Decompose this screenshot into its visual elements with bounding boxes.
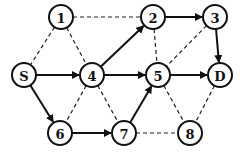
node-5: 5 [146, 63, 170, 87]
node-label: D [214, 69, 225, 84]
node-6: 6 [48, 121, 72, 145]
directed-solid-edges [30, 17, 219, 133]
node-2: 2 [141, 5, 165, 29]
dashed-edge-4-7 [98, 86, 118, 123]
arrow-edge-4-to-2 [101, 26, 144, 67]
node-7: 7 [112, 121, 136, 145]
dashed-edge-1-4 [67, 28, 87, 65]
dashed-edge-D-8 [196, 86, 215, 123]
dashed-edge-1-S [30, 27, 54, 65]
node-label: 7 [119, 127, 128, 142]
node-label: S [19, 69, 28, 84]
node-label: 6 [55, 127, 64, 142]
arrow-edge-3-to-D [216, 29, 219, 62]
node-label: 1 [56, 11, 65, 26]
dashed-edge-2-5 [154, 29, 157, 63]
dashed-edge-3-5 [166, 26, 206, 67]
node-label: 3 [210, 11, 219, 26]
node-label: 2 [148, 11, 157, 26]
node-S: S [12, 63, 36, 87]
node-label: 4 [87, 69, 96, 84]
arrow-edge-S-to-6 [30, 85, 53, 122]
node-8: 8 [178, 121, 202, 145]
node-label: 5 [153, 69, 162, 84]
node-4: 4 [80, 63, 104, 87]
dashed-edge-5-8 [164, 86, 184, 123]
arrow-edge-7-to-5 [130, 86, 151, 122]
node-D: D [208, 63, 232, 87]
node-1: 1 [49, 5, 73, 29]
network-graph: 123S45D678 [0, 0, 249, 155]
dashed-edge-4-6 [66, 86, 86, 123]
node-3: 3 [203, 5, 227, 29]
node-label: 8 [185, 127, 194, 142]
